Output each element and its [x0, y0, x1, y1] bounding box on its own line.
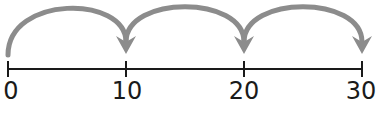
jump-arc-10-20 — [126, 7, 254, 54]
tick-label-0: 0 — [3, 79, 18, 103]
number-line-svg — [0, 0, 385, 119]
tick-label-20: 20 — [229, 79, 260, 103]
tick-label-10: 10 — [112, 79, 143, 103]
jump-arc-20-30 — [244, 7, 372, 54]
number-line-diagram: 0 10 20 30 — [0, 0, 385, 119]
tick-label-30: 30 — [346, 79, 377, 103]
jump-arc-0-10 — [8, 8, 136, 55]
